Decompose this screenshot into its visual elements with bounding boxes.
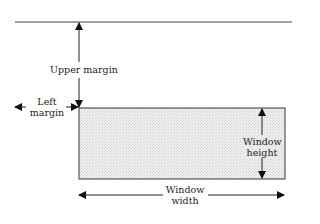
window-height-line2: height <box>243 147 281 158</box>
upper-margin-label: Upper margin <box>50 64 108 75</box>
left-margin-line2: margin <box>28 107 66 118</box>
left-margin-label: Left margin <box>28 96 66 118</box>
window-width-label: Window width <box>164 184 206 206</box>
window-height-label: Window height <box>243 136 281 158</box>
window-height-line1: Window <box>243 136 281 147</box>
upper-margin-text: Upper margin <box>50 64 118 75</box>
window-width-line2: width <box>164 195 206 206</box>
window-width-line1: Window <box>164 184 206 195</box>
left-margin-line1: Left <box>28 96 66 107</box>
